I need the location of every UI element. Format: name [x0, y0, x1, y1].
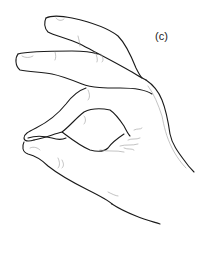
- figure-label: (c): [155, 30, 168, 42]
- palm-lower-edge: [112, 204, 160, 224]
- second-finger-bottom: [16, 54, 152, 94]
- ok-circle-inner: [62, 132, 124, 151]
- index-finger-outline: [24, 88, 86, 141]
- upper-finger-top: [46, 16, 142, 78]
- hand-ok-gesture-illustration: [0, 0, 204, 270]
- thumb-tip: [28, 137, 66, 140]
- upper-finger-outline: [45, 18, 146, 80]
- second-finger-top: [18, 51, 98, 54]
- figure-canvas: (c): [0, 0, 204, 270]
- index-finger-inner: [34, 109, 130, 140]
